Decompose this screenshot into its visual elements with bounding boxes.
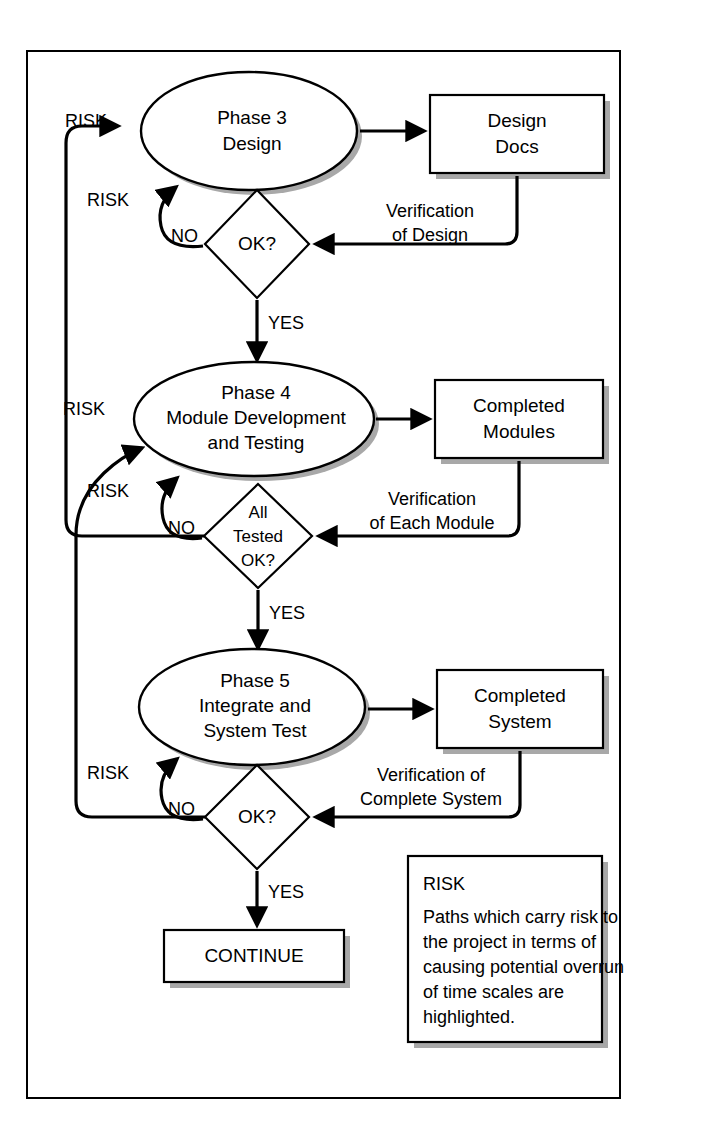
phase4-label-line2: Module Development <box>166 407 346 428</box>
risk-phase4-outer-label: RISK <box>63 399 105 419</box>
design-docs-label-line2: Docs <box>495 136 538 157</box>
phase5-label-line2: Integrate and <box>199 695 311 716</box>
phase5-label-line1: Phase 5 <box>220 670 290 691</box>
decision2-label-line3: OK? <box>241 551 275 570</box>
edge-risk-loop-decision2-to-phase3 <box>66 126 204 536</box>
yes-decision1-label: YES <box>268 313 304 333</box>
completed-modules-fill <box>435 380 603 458</box>
decision3-label: OK? <box>238 806 276 827</box>
legend-title: RISK <box>423 874 465 894</box>
diagram-canvas: Phase 3 Design Design Docs OK? Verificat… <box>0 0 718 1122</box>
legend-body-line1: Paths which carry risk to <box>423 907 618 927</box>
decision1-label: OK? <box>238 233 276 254</box>
completed-system-fill <box>437 670 603 748</box>
phase3-label-line1: Phase 3 <box>217 107 287 128</box>
legend-body-line3: causing potential overrun <box>423 957 624 977</box>
continue-label: CONTINUE <box>204 945 303 966</box>
phase3-label-line2: Design <box>222 133 281 154</box>
verification-each-module-line1: Verification <box>388 489 476 509</box>
verification-of-design-line2: of Design <box>392 225 468 245</box>
flowchart-svg: Phase 3 Design Design Docs OK? Verificat… <box>0 0 718 1122</box>
no-decision1-label: NO <box>171 226 198 246</box>
completed-system-label-line1: Completed <box>474 685 566 706</box>
phase5-label-line3: System Test <box>203 720 307 741</box>
verification-of-design-line1: Verification <box>386 201 474 221</box>
completed-modules-label-line1: Completed <box>473 395 565 416</box>
legend-body-line4: of time scales are <box>423 982 564 1002</box>
design-docs-fill <box>430 95 604 173</box>
legend-body-line2: the project in terms of <box>423 932 597 952</box>
risk-phase3-inner-label: RISK <box>87 190 129 210</box>
phase4-label-line3: and Testing <box>208 432 305 453</box>
yes-decision2-label: YES <box>269 603 305 623</box>
completed-system-label-line2: System <box>488 711 551 732</box>
decision2-label-line2: Tested <box>233 527 283 546</box>
design-docs-label-line1: Design <box>487 110 546 131</box>
verification-each-module-line2: of Each Module <box>369 513 494 533</box>
completed-modules-label-line2: Modules <box>483 421 555 442</box>
legend-body-line5: highlighted. <box>423 1007 515 1027</box>
verification-complete-system-line2: Complete System <box>360 789 502 809</box>
yes-decision3-label: YES <box>268 882 304 902</box>
risk-phase5-label: RISK <box>87 763 129 783</box>
verification-complete-system-line1: Verification of <box>377 765 486 785</box>
phase4-label-line1: Phase 4 <box>221 382 291 403</box>
edge-risk-loop-decision3-to-phase4 <box>76 448 205 817</box>
decision2-label-line1: All <box>249 503 268 522</box>
